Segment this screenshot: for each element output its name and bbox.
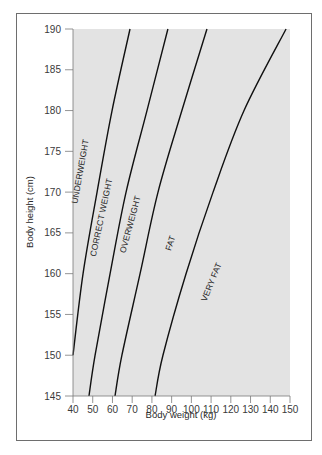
x-tick-label: 40: [67, 404, 79, 415]
y-tick-label: 160: [44, 268, 61, 279]
y-tick-label: 180: [44, 105, 61, 116]
x-tick-label: 50: [87, 404, 99, 415]
y-tick-label: 170: [44, 187, 61, 198]
x-tick-label: 120: [222, 404, 239, 415]
y-axis-title: Body height (cm): [24, 176, 35, 248]
y-tick-label: 145: [44, 391, 61, 402]
x-tick-label: 60: [107, 404, 119, 415]
x-tick-label: 150: [282, 404, 299, 415]
y-tick-label: 155: [44, 309, 61, 320]
x-axis-title: Body weight (kg): [146, 409, 217, 420]
y-tick-label: 185: [44, 64, 61, 75]
y-tick-label: 165: [44, 227, 61, 238]
chart: 145150155160165170175180185190 405060708…: [0, 0, 322, 455]
x-tick-label: 70: [127, 404, 139, 415]
x-tick-label: 140: [262, 404, 279, 415]
y-tick-label: 175: [44, 146, 61, 157]
y-axis-ticks: 145150155160165170175180185190: [44, 24, 73, 402]
x-tick-label: 130: [242, 404, 259, 415]
y-tick-label: 190: [44, 24, 61, 35]
y-tick-label: 150: [44, 350, 61, 361]
